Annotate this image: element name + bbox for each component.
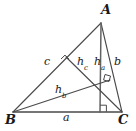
side-label-c: c [44,56,50,67]
altitude-label-h-b: hb [55,84,67,98]
side-label-a: a [63,112,70,123]
vertex-label-C: C [118,113,128,126]
side-label-b: b [114,56,121,67]
altitude-subscript-b: b [62,92,66,100]
altitude-label-h-a: ha [94,56,105,70]
vertex-label-A: A [101,3,111,16]
altitude-label-h-c: hc [77,56,88,70]
altitude-subscript-c: c [84,64,88,72]
right-angle-mark-h-a [100,105,106,111]
triangle-altitudes-diagram: A B C a b c ha hb hc [0,0,136,131]
vertex-label-B: B [5,113,16,126]
altitude-subscript-a: a [101,64,105,72]
